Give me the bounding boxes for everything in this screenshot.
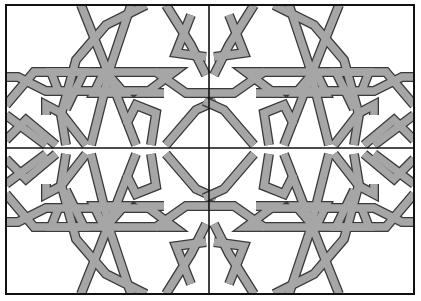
- interlace-pattern-diagram: [0, 0, 421, 301]
